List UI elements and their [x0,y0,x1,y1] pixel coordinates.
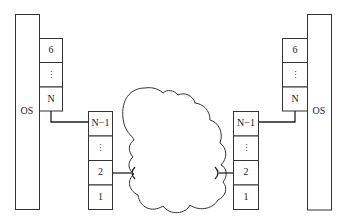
left-layer-n-minus-1-label: N−1 [92,117,110,128]
right-layer-n-minus-1-label: N−1 [237,117,255,128]
right-layer-2-label: 2 [244,166,249,177]
right-os-label: OS [313,105,326,116]
left-ellipsis-upper-label: ⋮ [47,70,56,80]
right-host: OS 6 ⋮ N N−1 ⋮ 2 1 [234,15,332,211]
right-upper-lower-connector [258,111,295,122]
left-layer-6-label: 6 [49,44,54,55]
left-ellipsis-lower-label: ⋮ [96,143,105,153]
left-layer-2-label: 2 [98,166,103,177]
network-cloud [123,88,226,213]
left-layer-1-label: 1 [98,191,103,202]
right-upper-stack: 6 ⋮ N [283,39,308,112]
left-upper-lower-connector [51,111,89,122]
left-lower-stack: N−1 ⋮ 2 1 [89,112,113,210]
right-lower-stack: N−1 ⋮ 2 1 [234,112,259,210]
right-ellipsis-lower-label: ⋮ [242,143,251,153]
right-layer-n-label: N [291,93,298,104]
left-upper-stack: 6 ⋮ N [40,39,63,112]
right-layer-6-label: 6 [293,44,298,55]
left-os-label: OS [21,105,34,116]
right-layer-1-label: 1 [244,191,249,202]
left-host: OS 6 ⋮ N N−1 ⋮ 2 1 [16,15,113,210]
right-ellipsis-upper-label: ⋮ [291,70,300,80]
left-layer-n-label: N [47,93,54,104]
network-layer-diagram: OS 6 ⋮ N N−1 ⋮ 2 1 OS [0,0,347,222]
